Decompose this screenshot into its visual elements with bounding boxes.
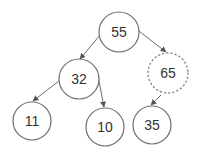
node-label: 55 <box>111 24 127 40</box>
tree-node-35: 35 <box>133 106 171 144</box>
node-label: 10 <box>97 119 113 135</box>
edge-55-32 <box>80 35 100 59</box>
edge-55-65 <box>139 31 166 52</box>
tree-diagram: 55 32 65 11 10 35 <box>0 0 200 158</box>
edge-32-11 <box>33 81 59 101</box>
node-label: 11 <box>25 113 40 129</box>
tree-node-32: 32 <box>59 59 99 99</box>
tree-node-55: 55 <box>99 12 139 52</box>
tree-node-65: 65 <box>148 53 188 93</box>
node-label: 35 <box>144 117 160 133</box>
node-label: 65 <box>160 65 176 81</box>
edges <box>33 31 166 107</box>
tree-node-10: 10 <box>86 108 124 146</box>
edge-65-35 <box>151 95 161 105</box>
tree-node-11: 11 <box>13 102 51 140</box>
node-label: 32 <box>71 71 87 87</box>
